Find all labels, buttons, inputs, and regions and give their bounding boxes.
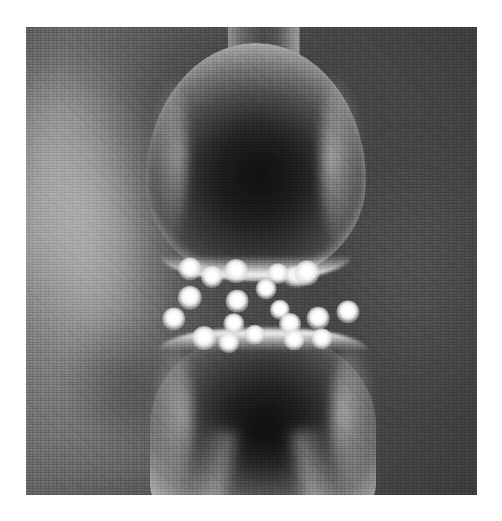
vesicle-fusion-site — [282, 267, 312, 287]
postsynaptic-taper — [192, 455, 334, 495]
presynaptic-rim-highlight-left — [148, 67, 188, 247]
figure-root — [0, 0, 502, 521]
postsynaptic-rim-highlight-left — [150, 345, 194, 495]
presynaptic-terminal — [146, 27, 366, 281]
presynaptic-membrane — [160, 255, 352, 281]
postsynaptic-membrane — [158, 327, 368, 351]
presynaptic-rim-highlight-right — [320, 67, 364, 253]
postsynaptic-rim-highlight-right — [330, 345, 376, 495]
postsynaptic-terminal — [150, 327, 376, 495]
micrograph-plate — [26, 27, 477, 495]
